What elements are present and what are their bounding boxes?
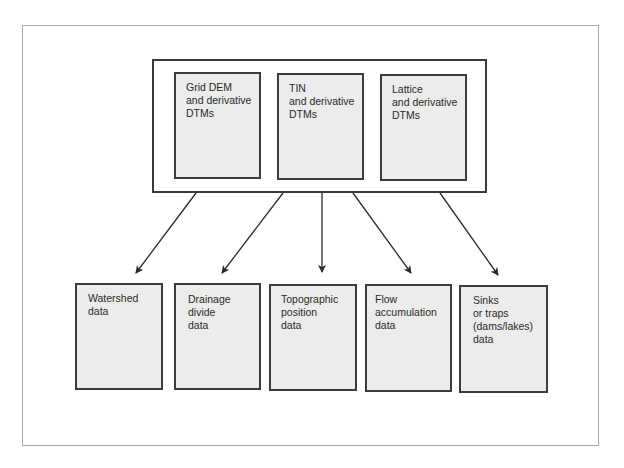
box-label: data	[281, 319, 355, 332]
box-label: and derivative	[289, 95, 362, 108]
output-box-drainage-divide: Drainage divide data	[174, 283, 261, 390]
box-label: DTMs	[392, 109, 465, 122]
box-label: or traps	[473, 307, 546, 320]
box-label: Flow	[375, 293, 450, 306]
output-box-flow-accumulation: Flow accumulation data	[365, 284, 452, 392]
output-box-watershed: Watershed data	[75, 283, 163, 390]
box-label: data	[473, 333, 546, 346]
box-label: accumulation	[375, 306, 450, 319]
box-label: position	[281, 306, 355, 319]
box-label: and derivative	[392, 96, 465, 109]
box-label: Watershed	[88, 292, 161, 305]
source-box-tin: TIN and derivative DTMs	[277, 73, 364, 180]
box-label: Lattice	[392, 83, 465, 96]
box-label: divide	[188, 306, 259, 319]
box-label: data	[375, 319, 450, 332]
output-box-topographic-position: Topographic position data	[269, 284, 357, 391]
box-label: DTMs	[186, 107, 259, 120]
output-box-sinks-traps: Sinks or traps (dams/lakes) data	[459, 285, 548, 393]
box-label: Topographic	[281, 293, 355, 306]
box-label: and derivative	[186, 94, 259, 107]
box-label: Sinks	[473, 294, 546, 307]
box-label: data	[188, 319, 259, 332]
box-label: DTMs	[289, 108, 362, 121]
box-label: data	[88, 305, 161, 318]
box-label: (dams/lakes)	[473, 320, 546, 333]
box-label: TIN	[289, 82, 362, 95]
box-label: Drainage	[188, 293, 259, 306]
source-box-grid-dem: Grid DEM and derivative DTMs	[174, 72, 261, 179]
source-box-lattice: Lattice and derivative DTMs	[380, 74, 467, 181]
box-label: Grid DEM	[186, 81, 259, 94]
